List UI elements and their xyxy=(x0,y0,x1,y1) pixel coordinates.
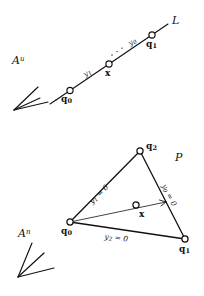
point-q0-top xyxy=(67,87,73,93)
region-P-label: P xyxy=(175,152,182,163)
label-q1-bottom: q1 xyxy=(179,245,190,255)
line-L-left-tail xyxy=(50,100,56,104)
top-panel-group xyxy=(50,24,168,104)
label-q0-bottom: q0 xyxy=(61,227,72,237)
point-q1-bottom xyxy=(182,236,188,242)
bottom-frame-axes xyxy=(18,243,54,277)
top-frame-axis-1 xyxy=(14,87,38,110)
label-x-top: x xyxy=(105,69,110,78)
point-x-bottom xyxy=(133,202,139,208)
bottom-frame-axis-1 xyxy=(18,243,32,277)
label-q1-top: q1 xyxy=(146,40,157,50)
bottom-space-label: An xyxy=(18,228,30,239)
figure-canvas: Au L q0 x q1 y1 y0 An P q0 q1 q2 x y1 = … xyxy=(0,0,204,296)
point-q1-top xyxy=(149,32,155,38)
top-space-label: Au xyxy=(12,55,24,66)
label-x-bottom: x xyxy=(139,210,144,219)
point-x-top xyxy=(106,61,112,67)
line-L-label: L xyxy=(172,15,179,26)
barycentric-ray-q0-to-x xyxy=(70,202,166,222)
label-q0-top: q0 xyxy=(61,95,72,105)
top-frame-axes xyxy=(14,87,48,110)
point-q2-bottom xyxy=(137,148,143,154)
label-q2-bottom: q2 xyxy=(146,142,157,152)
point-q0-bottom xyxy=(67,219,73,225)
top-frame-axis-3 xyxy=(14,98,40,110)
ellipsis-dots xyxy=(111,48,122,56)
figure-vector-layer xyxy=(0,0,204,296)
top-frame-axis-2 xyxy=(14,102,48,110)
